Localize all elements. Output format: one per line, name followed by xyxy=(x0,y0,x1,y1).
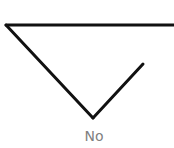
diagram-lines xyxy=(0,0,174,148)
right-diagonal-line xyxy=(93,64,143,118)
diagram-canvas: No xyxy=(0,0,174,148)
left-diagonal-line xyxy=(6,25,93,118)
branch-label: No xyxy=(72,127,116,145)
